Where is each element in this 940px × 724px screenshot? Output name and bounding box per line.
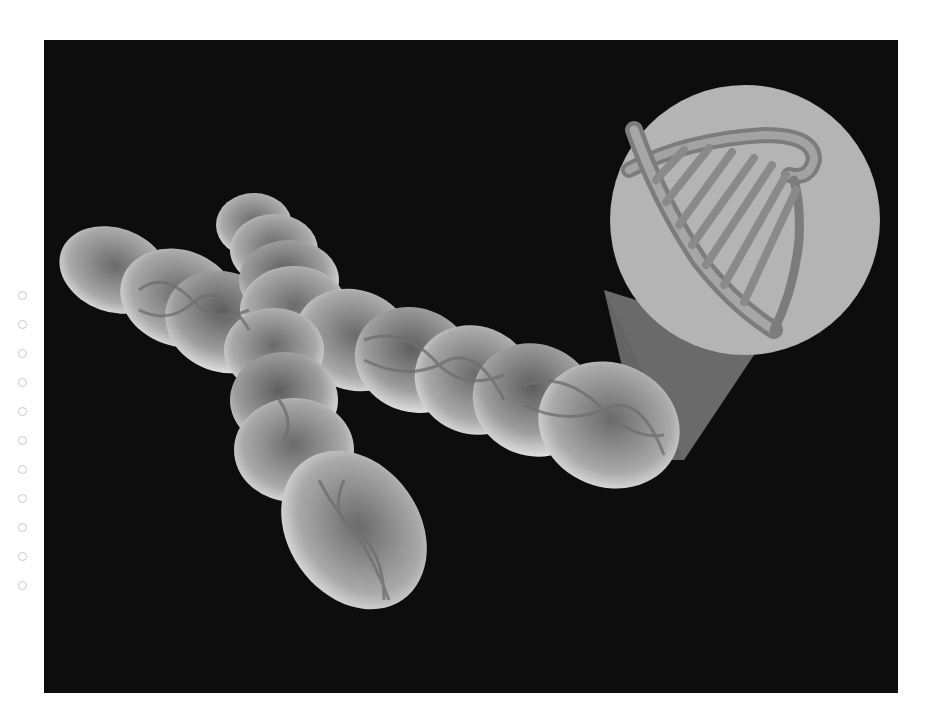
pagination-dot-10[interactable] <box>18 552 27 561</box>
chromosome-illustration <box>44 40 898 693</box>
pagination-dot-7[interactable] <box>18 465 27 474</box>
illustration-frame <box>44 40 898 693</box>
slide-pagination <box>18 291 32 610</box>
pagination-dot-5[interactable] <box>18 407 27 416</box>
pagination-dot-8[interactable] <box>18 494 27 503</box>
pagination-dot-6[interactable] <box>18 436 27 445</box>
pagination-dot-9[interactable] <box>18 523 27 532</box>
pagination-dot-11[interactable] <box>18 581 27 590</box>
pagination-dot-2[interactable] <box>18 320 27 329</box>
pagination-dot-1[interactable] <box>18 291 27 300</box>
pagination-dot-4[interactable] <box>18 378 27 387</box>
pagination-dot-3[interactable] <box>18 349 27 358</box>
